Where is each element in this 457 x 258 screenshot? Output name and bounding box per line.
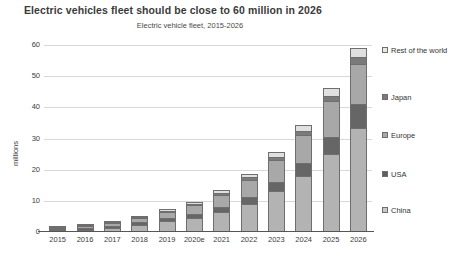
y-tick-label: 0 xyxy=(18,228,40,236)
bar-segment-usa xyxy=(323,137,340,154)
legend-item-china[interactable]: China xyxy=(382,206,449,215)
legend-swatch-icon xyxy=(382,94,388,100)
bar-segment-rest-of-the-world xyxy=(350,48,367,58)
legend-item-usa[interactable]: USA xyxy=(382,170,449,179)
bar-segment-europe xyxy=(241,180,258,197)
chart-title: Electric vehicles fleet should be close … xyxy=(24,4,322,16)
bar-segment-europe xyxy=(350,64,367,105)
bar-column[interactable] xyxy=(241,174,258,232)
legend-label: China xyxy=(391,206,449,215)
legend-swatch-icon xyxy=(382,171,388,177)
legend-item-japan[interactable]: Japan xyxy=(382,93,449,102)
legend-item-europe[interactable]: Europe xyxy=(382,131,449,140)
bar-column[interactable] xyxy=(350,48,367,232)
bar-column[interactable] xyxy=(213,190,230,232)
bar-segment-europe xyxy=(295,135,312,163)
y-tick-label: 10 xyxy=(18,197,40,205)
bar-segment-usa xyxy=(241,197,258,204)
bar-segment-china xyxy=(213,212,230,232)
legend-label: Europe xyxy=(391,131,449,140)
bar-segment-usa xyxy=(295,163,312,175)
bar-column[interactable] xyxy=(295,125,312,232)
legend-label: USA xyxy=(391,170,449,179)
gridline xyxy=(44,76,372,77)
y-tick-label: 30 xyxy=(18,135,40,143)
bar-segment-china xyxy=(350,128,367,232)
bar-column[interactable] xyxy=(323,88,340,232)
y-tick-label: 60 xyxy=(18,41,40,49)
bar-segment-europe xyxy=(323,101,340,137)
y-tick-label: 50 xyxy=(18,72,40,80)
chart-subtitle: Electric vehicle fleet, 2015-2026 xyxy=(0,21,380,30)
x-axis-line xyxy=(38,231,374,232)
y-tick-label: 20 xyxy=(18,166,40,174)
legend-swatch-icon xyxy=(382,132,388,138)
bar-segment-china xyxy=(295,176,312,232)
bar-segment-china xyxy=(268,191,285,232)
bar-segment-usa xyxy=(268,182,285,191)
bar-segment-europe xyxy=(213,195,230,207)
chart-page: Electric vehicles fleet should be close … xyxy=(0,0,457,258)
y-axis-ticks: millions 0102030405060 xyxy=(14,45,40,232)
bar-column[interactable] xyxy=(159,209,176,232)
bar-column[interactable] xyxy=(268,152,285,232)
bar-segment-china xyxy=(323,154,340,232)
bar-segment-usa xyxy=(350,104,367,127)
legend-label: Japan xyxy=(391,93,449,102)
legend-item-rest-of-the-world[interactable]: Rest of the world xyxy=(382,46,449,55)
legend-swatch-icon xyxy=(382,47,388,53)
gridline xyxy=(44,45,372,46)
bar-segment-europe xyxy=(186,205,203,214)
legend-label: Rest of the world xyxy=(391,46,449,55)
legend-swatch-icon xyxy=(382,207,388,213)
y-tick-label: 40 xyxy=(18,103,40,111)
bar-column[interactable] xyxy=(131,216,148,232)
bar-column[interactable] xyxy=(186,202,203,232)
bar-segment-rest-of-the-world xyxy=(323,88,340,96)
x-tick-label: 2026 xyxy=(340,235,376,244)
y-axis-title: millions xyxy=(11,141,20,166)
plot-frame: 201520162017201820192020e202120222023202… xyxy=(44,45,372,232)
bar-segment-europe xyxy=(268,160,285,182)
plot-area xyxy=(44,45,372,232)
bar-segment-china xyxy=(241,204,258,232)
